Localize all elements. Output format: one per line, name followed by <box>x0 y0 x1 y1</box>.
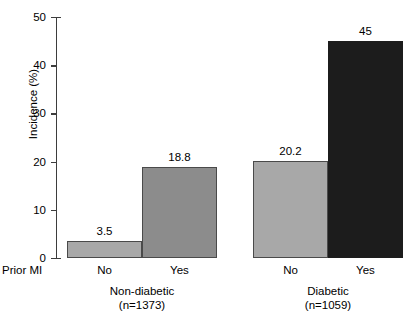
group-caption-diabetic: Diabetic (n=1059) <box>253 284 403 312</box>
category-label-nondiabetic-yes: Yes <box>142 265 217 277</box>
row-label-prior-mi: Prior MI <box>2 265 42 277</box>
y-tick-label-50: 50 <box>16 12 46 24</box>
category-label-nondiabetic-no: No <box>67 265 142 277</box>
bar-value-diabetic-no: 20.2 <box>253 146 328 158</box>
y-tick-label-20: 20 <box>16 157 46 169</box>
bar-value-nondiabetic-yes: 18.8 <box>142 152 217 164</box>
group-caption-nondiabetic: Non-diabetic (n=1373) <box>67 284 217 312</box>
y-tick-mark-10 <box>51 210 57 211</box>
y-tick-label-10: 10 <box>16 205 46 217</box>
y-tick-label-30: 30 <box>16 108 46 120</box>
y-tick-label-40: 40 <box>16 60 46 72</box>
group-name-nondiabetic: Non-diabetic <box>67 284 217 298</box>
group-n-nondiabetic: (n=1373) <box>67 298 217 312</box>
group-name-diabetic: Diabetic <box>253 284 403 298</box>
y-tick-mark-40 <box>51 65 57 66</box>
category-label-diabetic-no: No <box>253 265 328 277</box>
bar-diabetic-yes <box>328 41 403 258</box>
y-tick-mark-30 <box>51 113 57 114</box>
bar-value-nondiabetic-no: 3.5 <box>67 226 142 238</box>
bar-chart-figure: Incidence (%) 50 40 30 20 10 0 3.5 18.8 … <box>0 0 415 316</box>
bar-nondiabetic-no <box>67 241 142 258</box>
y-tick-mark-20 <box>51 162 57 163</box>
bar-nondiabetic-yes <box>142 167 217 258</box>
group-n-diabetic: (n=1059) <box>253 298 403 312</box>
bar-diabetic-no <box>253 161 328 258</box>
bar-value-diabetic-yes: 45 <box>328 26 403 38</box>
y-axis-spine <box>56 17 57 259</box>
category-label-diabetic-yes: Yes <box>328 265 403 277</box>
y-tick-mark-0 <box>51 258 57 259</box>
y-tick-label-0: 0 <box>16 253 46 265</box>
y-tick-mark-50 <box>51 17 57 18</box>
